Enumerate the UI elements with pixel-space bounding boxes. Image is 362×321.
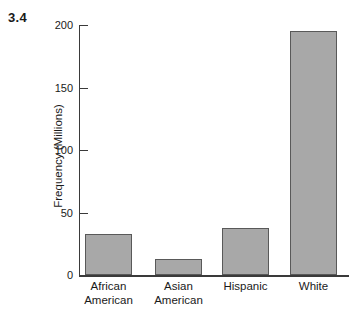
x-axis-line [79, 275, 349, 277]
bar-asian-american [155, 259, 202, 275]
x-label-asian-american: AsianAmerican [145, 280, 213, 307]
y-tick-label: 50 [45, 208, 73, 219]
y-tick-50: 50 [0, 213, 76, 214]
y-tick-150: 150 [0, 88, 76, 89]
y-tick-mark [80, 25, 88, 26]
x-label-line: African [75, 280, 143, 294]
y-tick-label: 100 [45, 145, 73, 156]
x-label-line: American [75, 294, 143, 308]
y-tick-label: 200 [45, 20, 73, 31]
y-tick-mark [80, 88, 88, 89]
x-label-hispanic: Hispanic [212, 280, 280, 294]
bar-hispanic [222, 228, 269, 276]
bar-white [290, 31, 337, 275]
y-tick-label: 150 [45, 83, 73, 94]
y-tick-mark [80, 213, 88, 214]
y-tick-mark [80, 150, 88, 151]
y-tick-100: 100 [0, 150, 76, 151]
x-label-white: White [280, 280, 348, 294]
x-label-line: Asian [145, 280, 213, 294]
y-tick-200: 200 [0, 25, 76, 26]
chart-page: 3.4 Frequency (Millions) 050100150200 Af… [0, 0, 362, 321]
bar-chart-plot: Frequency (Millions) 050100150200 Africa… [0, 0, 362, 321]
y-tick-label: 0 [45, 270, 73, 281]
bar-african-american [85, 234, 132, 275]
y-tick-mark [80, 275, 88, 276]
x-label-african-american: AfricanAmerican [75, 280, 143, 307]
x-label-line: White [280, 280, 348, 294]
x-label-line: American [145, 294, 213, 308]
x-label-line: Hispanic [212, 280, 280, 294]
y-tick-0: 0 [0, 275, 76, 276]
